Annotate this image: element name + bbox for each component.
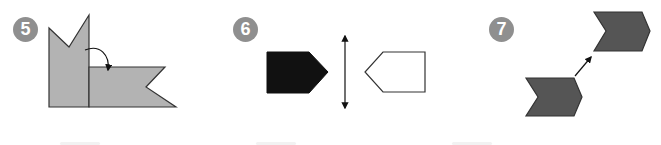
- reflected-pentagon-shape: [365, 52, 425, 92]
- original-chevron-shape: [526, 78, 582, 116]
- exercise-5-figure: [49, 15, 176, 107]
- translated-chevron-shape: [594, 12, 650, 51]
- exercise-5-answer-box[interactable]: [60, 142, 100, 145]
- rotated-flag-shape: [89, 67, 176, 107]
- exercise-7-answer-box[interactable]: [452, 142, 492, 145]
- exercise-6-answer-box[interactable]: [256, 142, 296, 145]
- translation-arrow-icon: [575, 57, 591, 76]
- exercise-7-figure: [526, 12, 650, 116]
- exercise-6-figure: [267, 36, 425, 108]
- original-flag-shape: [49, 15, 89, 107]
- original-pentagon-shape: [267, 52, 328, 93]
